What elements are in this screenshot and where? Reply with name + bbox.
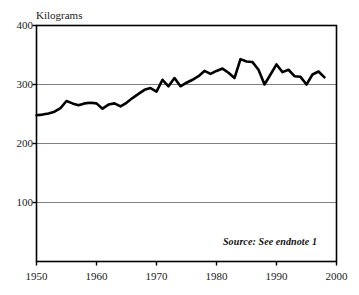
y-tick-label-wrap: 300 [0, 79, 33, 90]
x-tick-label: 1980 [206, 270, 228, 282]
y-tick-label-wrap: 100 [0, 197, 33, 208]
y-tick-label: 400 [1, 20, 33, 31]
x-tick-label: 1970 [146, 270, 168, 282]
y-tick-label-wrap: 400 [0, 20, 33, 31]
y-tick-label: 100 [1, 197, 33, 208]
chart-figure: Kilograms 100200300400195019601970198019… [0, 0, 359, 295]
source-note: Source: See endnote 1 [223, 236, 317, 247]
x-tick-label-wrap: 2000 [317, 266, 357, 284]
x-tick-label-wrap: 1980 [197, 266, 237, 284]
x-tick-label: 1960 [86, 270, 108, 282]
chart-plot-area [0, 0, 359, 295]
y-tick-label-wrap: 200 [0, 138, 33, 149]
x-tick-label-wrap: 1990 [257, 266, 297, 284]
x-tick-label-wrap: 1950 [17, 266, 57, 284]
x-tick-label-wrap: 1960 [77, 266, 117, 284]
gridlines [37, 85, 337, 203]
x-tick-label: 1950 [26, 270, 48, 282]
y-tick-label: 200 [1, 138, 33, 149]
data-series-line [37, 59, 325, 115]
y-axis-title: Kilograms [36, 9, 82, 21]
x-tick-label-wrap: 1970 [137, 266, 177, 284]
x-tick-label: 1990 [266, 270, 288, 282]
x-tick-label: 2000 [326, 270, 348, 282]
y-tick-label: 300 [1, 79, 33, 90]
